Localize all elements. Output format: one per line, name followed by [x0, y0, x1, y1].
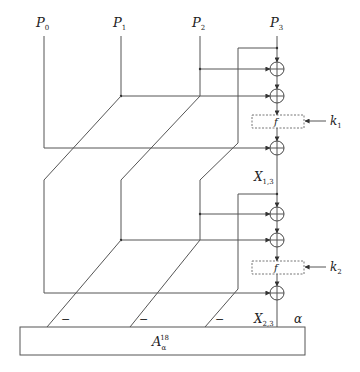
- xor-icon: [270, 62, 284, 76]
- input-label-p2: P2: [191, 15, 205, 32]
- alpha-label: α: [294, 312, 302, 326]
- xor-icon: [270, 286, 284, 300]
- xor-icon: [270, 233, 284, 247]
- output-label-x23: X2,3: [253, 312, 274, 328]
- key-label-k1: k1: [330, 114, 342, 130]
- feistel-diagram: P0 P1 P2 P3 f k1 X1,3: [0, 0, 360, 372]
- input-label-p1: P1: [112, 15, 126, 32]
- minus-sign: −: [215, 313, 224, 326]
- input-label-p0: P0: [35, 15, 49, 32]
- xor-icon: [270, 207, 284, 221]
- xor-icon: [270, 89, 284, 103]
- input-label-p3: P3: [269, 15, 283, 32]
- f-function-box-round2: [252, 261, 304, 274]
- output-label-x13: X1,3: [253, 170, 274, 186]
- minus-sign: −: [139, 313, 148, 326]
- round1-wires: [44, 36, 326, 293]
- f-function-box-round1: [252, 115, 304, 128]
- key-label-k2: k2: [330, 260, 342, 276]
- minus-sign: −: [61, 313, 70, 326]
- xor-icon: [270, 141, 284, 155]
